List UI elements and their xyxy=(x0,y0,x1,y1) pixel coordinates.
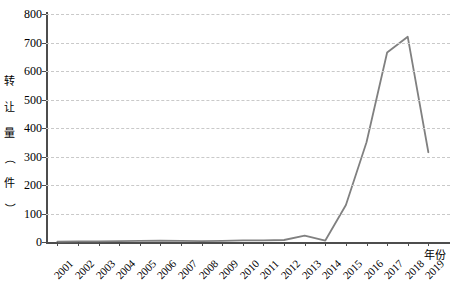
y-axis-tick-label: 400 xyxy=(14,122,42,134)
x-axis-tick-label: 2007 xyxy=(176,258,199,281)
x-axis-tick-label: 2006 xyxy=(155,258,178,281)
gridline xyxy=(46,157,450,158)
y-axis-tick-label: 0 xyxy=(14,236,42,248)
x-axis-tick-label: 2009 xyxy=(217,258,240,281)
x-axis-tick-label: 2012 xyxy=(279,258,302,281)
gridline xyxy=(46,14,450,15)
y-axis-tick-label: 500 xyxy=(14,94,42,106)
gridline xyxy=(46,214,450,215)
x-axis-tick-label: 2013 xyxy=(300,258,323,281)
x-axis-tick-mark xyxy=(387,242,388,246)
x-axis-tick-mark xyxy=(181,242,182,246)
y-axis-tick-mark xyxy=(42,214,46,215)
gridline xyxy=(46,43,450,44)
y-axis-title-char-3: （ xyxy=(4,152,15,166)
y-axis-tick-mark xyxy=(42,71,46,72)
gridline xyxy=(46,128,450,129)
x-axis-tick-label: 2001 xyxy=(52,258,75,281)
x-axis-tick-mark xyxy=(160,242,161,246)
x-axis-tick-mark xyxy=(99,242,100,246)
x-axis-tick-label: 2005 xyxy=(135,258,158,281)
y-axis-tick-label: 300 xyxy=(14,151,42,163)
x-axis-tick-mark xyxy=(222,242,223,246)
y-axis-tick-mark xyxy=(42,100,46,101)
y-axis-tick-mark xyxy=(42,157,46,158)
y-axis-tick-label: 700 xyxy=(14,37,42,49)
x-axis-line xyxy=(46,242,450,244)
y-axis-tick-label: 100 xyxy=(14,208,42,220)
plot-area: 2001200220032004200520062007200820092010… xyxy=(46,14,450,242)
x-axis-tick-mark xyxy=(346,242,347,246)
x-axis-tick-label: 2002 xyxy=(73,258,96,281)
x-axis-tick-mark xyxy=(325,242,326,246)
y-axis-tick-mark xyxy=(42,43,46,44)
x-axis-tick-mark xyxy=(78,242,79,246)
x-axis-tick-mark xyxy=(305,242,306,246)
y-axis-title-char-5: ） xyxy=(4,202,15,216)
x-axis-tick-label: 2011 xyxy=(259,258,282,281)
y-axis-tick-mark xyxy=(42,242,46,243)
x-axis-tick-mark xyxy=(263,242,264,246)
x-axis-tick-label: 2010 xyxy=(238,258,261,281)
x-axis-tick-mark xyxy=(57,242,58,246)
x-axis-tick-label: 2018 xyxy=(403,258,426,281)
y-axis-tick-mark xyxy=(42,128,46,129)
x-axis-tick-label: 2015 xyxy=(341,258,364,281)
y-axis-tick-label: 200 xyxy=(14,179,42,191)
x-axis-tick-mark xyxy=(428,242,429,246)
x-axis-tick-label: 2004 xyxy=(114,258,137,281)
y-axis-tick-mark xyxy=(42,185,46,186)
x-axis-tick-label: 2016 xyxy=(362,258,385,281)
y-axis-tick-labels: 0100200300400500600700800 xyxy=(14,0,42,286)
x-axis-tick-label: 2017 xyxy=(382,258,405,281)
x-axis-tick-mark xyxy=(284,242,285,246)
series-polyline-transfer-volume xyxy=(57,37,428,242)
x-axis-tick-mark xyxy=(408,242,409,246)
x-axis-tick-label: 2003 xyxy=(94,258,117,281)
x-axis-tick-label: 2014 xyxy=(320,258,343,281)
x-axis-tick-mark xyxy=(119,242,120,246)
x-axis-tick-mark xyxy=(202,242,203,246)
gridline xyxy=(46,100,450,101)
line-chart: 转 让 量 （ 件 ） 0100200300400500600700800 20… xyxy=(0,0,455,286)
y-axis-tick-label: 600 xyxy=(14,65,42,77)
x-axis-tick-mark xyxy=(367,242,368,246)
x-axis-tick-mark xyxy=(243,242,244,246)
x-axis-tick-mark xyxy=(140,242,141,246)
y-axis-tick-label: 800 xyxy=(14,8,42,20)
gridline xyxy=(46,71,450,72)
y-axis-tick-mark xyxy=(42,14,46,15)
gridline xyxy=(46,185,450,186)
x-axis-title: 年份 xyxy=(424,250,446,262)
x-axis-tick-label: 2008 xyxy=(197,258,220,281)
